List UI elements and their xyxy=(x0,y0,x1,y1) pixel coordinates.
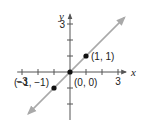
series-line xyxy=(28,18,124,114)
data-point xyxy=(51,85,56,90)
x-tick-label: 3 xyxy=(115,76,121,87)
chart: −333xy(−1, −1)(0, 0)(1, 1) xyxy=(0,0,143,128)
point-label: (−1, −1) xyxy=(14,77,49,88)
point-label: (0, 0) xyxy=(74,77,97,88)
x-axis-label: x xyxy=(130,66,136,78)
series xyxy=(28,18,124,114)
point-label: (1, 1) xyxy=(91,51,114,62)
data-point xyxy=(83,53,88,58)
data-point xyxy=(67,69,72,74)
y-axis-label: y xyxy=(58,10,64,22)
labels: −333xy(−1, −1)(0, 0)(1, 1) xyxy=(14,10,136,88)
